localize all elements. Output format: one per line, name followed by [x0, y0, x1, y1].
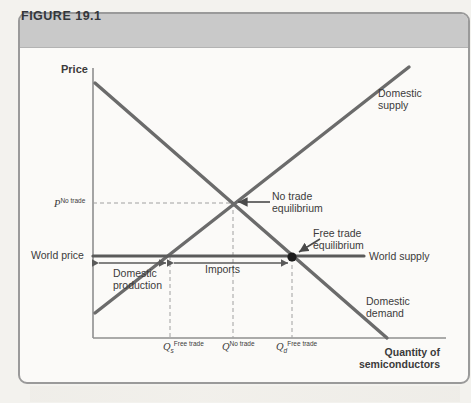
- free-trade-equilibrium-label-line2: equilibrium: [313, 239, 364, 251]
- q-no-trade-tick: QNo trade: [222, 340, 255, 352]
- no-trade-equilibrium-label-line1: No trade: [272, 190, 312, 202]
- q-supply-free-trade-symbol: Q: [163, 341, 171, 352]
- x-axis-label-line2: semiconductors: [359, 358, 440, 370]
- q-supply-free-trade-superscript: Free trade: [174, 340, 204, 347]
- q-supply-free-trade-tick: QsFree trade: [163, 340, 204, 354]
- domestic-production-label: Domestic production: [113, 268, 162, 291]
- q-demand-free-trade-symbol: Q: [276, 341, 284, 352]
- free-trade-equilibrium-label: Free trade equilibrium: [313, 228, 364, 251]
- q-demand-free-trade-superscript: Free trade: [287, 340, 317, 347]
- q-demand-free-trade-subscript: d: [284, 347, 288, 354]
- x-axis-label: Quantity of semiconductors: [359, 346, 440, 370]
- domestic-supply-label-line2: supply: [378, 99, 408, 111]
- domestic-supply-label-line1: Domestic: [378, 87, 422, 99]
- no-trade-equilibrium-label-line2: equilibrium: [272, 202, 323, 214]
- q-no-trade-superscript: No trade: [230, 340, 255, 347]
- free-trade-equilibrium-label-line1: Free trade: [313, 227, 361, 239]
- no-trade-equilibrium-label: No trade equilibrium: [272, 191, 323, 214]
- price-no-trade-superscript: No trade: [60, 197, 85, 204]
- domestic-demand-label-line1: Domestic: [366, 295, 410, 307]
- q-no-trade-symbol: Q: [222, 341, 230, 352]
- q-demand-free-trade-tick: QdFree trade: [276, 340, 317, 354]
- domestic-demand-label: Domestic demand: [366, 296, 410, 319]
- imports-label: Imports: [205, 264, 240, 276]
- world-price-label: World price: [31, 250, 84, 262]
- domestic-demand-label-line2: demand: [366, 307, 404, 319]
- domestic-production-label-line2: production: [113, 279, 162, 291]
- price-no-trade-tick: PNo trade: [54, 197, 85, 209]
- q-supply-free-trade-subscript: s: [171, 347, 174, 354]
- x-axis-label-line1: Quantity of: [385, 346, 440, 358]
- y-axis-label: Price: [61, 64, 88, 76]
- domestic-supply-label: Domestic supply: [378, 88, 422, 111]
- world-supply-label: World supply: [369, 251, 430, 263]
- free-trade-equilibrium-marker: [287, 252, 296, 261]
- domestic-production-label-line1: Domestic: [113, 267, 157, 279]
- domestic-demand-curve: [95, 83, 387, 338]
